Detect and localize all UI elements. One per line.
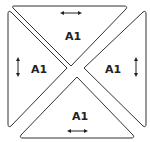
piece-label: A1 — [105, 63, 121, 76]
piece-label: A1 — [31, 63, 47, 76]
quilt-block-diagram: A1 A1 A1 A1 — [0, 0, 150, 142]
piece-label: A1 — [65, 30, 81, 43]
piece-label: A1 — [72, 110, 88, 123]
